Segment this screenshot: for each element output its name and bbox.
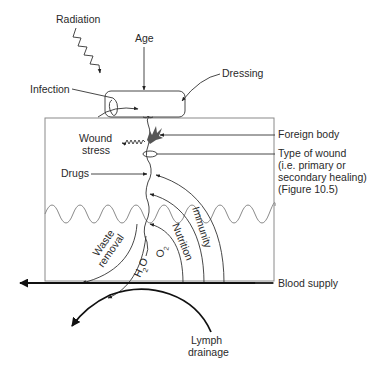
wound-stress-zigzag-arrow (122, 140, 145, 144)
label-blood-supply: Blood supply (278, 277, 339, 289)
label-dressing: Dressing (222, 67, 264, 79)
label-drugs: Drugs (61, 167, 89, 179)
label-type-of-wound-4: (Figure 10.5) (278, 183, 338, 195)
label-type-of-wound-2: (i.e. primary or (278, 159, 346, 171)
label-type-of-wound-1: Type of wound (278, 147, 346, 159)
infection-arrow (98, 108, 138, 117)
label-lymph-1: Lymph (191, 334, 222, 346)
dressing-leader (182, 74, 220, 101)
lymph-drainage-arrow (72, 289, 211, 332)
label-radiation: Radiation (56, 13, 101, 25)
infection-leader (72, 89, 118, 116)
label-lymph-2: drainage (188, 346, 229, 358)
label-o2: O2 (153, 244, 169, 259)
label-wound-stress-2: stress (82, 144, 110, 156)
label-age: Age (135, 32, 154, 44)
label-type-of-wound-3: secondary healing) (278, 171, 367, 183)
label-h2o: H2O (131, 256, 152, 280)
wound-type-ring (143, 151, 157, 157)
wound-healing-factors-diagram: Dressing Infection Age Radiation Foreign… (0, 0, 367, 374)
label-immunity: Immunity (190, 205, 215, 250)
radiation-zigzag-arrow (73, 28, 100, 73)
tissue-wave (45, 202, 275, 223)
label-infection: Infection (30, 83, 70, 95)
immunity-arrow (156, 175, 224, 283)
label-foreign-body: Foreign body (278, 128, 340, 140)
label-wound-stress-1: Wound (79, 132, 112, 144)
